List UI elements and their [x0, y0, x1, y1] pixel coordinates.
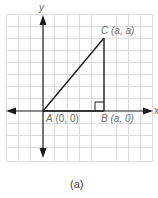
point-a-label: A (0, 0): [46, 114, 79, 124]
point-a-name: A: [46, 113, 53, 124]
point-b-label: B (a, 0): [101, 114, 134, 124]
x-axis-right-arrow-icon: [143, 108, 153, 115]
figure-caption: (a): [70, 178, 83, 190]
x-axis-left-arrow-icon: [6, 108, 16, 115]
y-axis-down-arrow-icon: [40, 148, 47, 158]
point-c-label: C (a, a): [101, 26, 134, 36]
point-c-coords: (a, a): [111, 25, 134, 36]
point-a-coords: (0, 0): [55, 113, 78, 124]
point-c-name: C: [101, 25, 108, 36]
point-b-coords: (a, 0): [110, 113, 133, 124]
y-axis-up-arrow-icon: [40, 15, 47, 25]
grid: [6, 14, 153, 162]
x-axis-label: x: [154, 106, 158, 116]
point-b-name: B: [101, 113, 108, 124]
y-axis-label: y: [39, 3, 44, 13]
right-angle-marker-icon: [95, 102, 104, 111]
